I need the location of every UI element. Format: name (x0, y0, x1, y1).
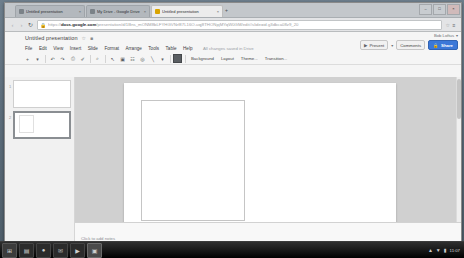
lock-icon: 🔒 (40, 22, 46, 28)
toolbar-divider (185, 55, 186, 63)
taskbar-app-mail[interactable]: ✉ (53, 243, 68, 258)
zoom-icon[interactable]: ⌕ (93, 54, 102, 63)
volume-icon[interactable]: ▮ (444, 247, 447, 253)
transition-button[interactable]: Transition... (262, 56, 290, 61)
page-title[interactable]: Untitled presentation (25, 35, 78, 41)
taskbar: ⊞ ▤ ● ✉ ▶ ▣ ▲ ▼ ▮ 11:07 (0, 241, 464, 258)
taskbar-app-explorer[interactable]: ▤ (19, 243, 34, 258)
redo-icon[interactable]: ↷ (58, 54, 67, 63)
new-tab-button[interactable]: + (225, 7, 228, 13)
slide-thumbnail-preview[interactable] (13, 80, 71, 108)
toolbar-divider (45, 55, 46, 63)
menu-insert[interactable]: Insert (70, 46, 82, 51)
present-button[interactable]: ▶ Present (360, 40, 388, 50)
background-button[interactable]: Background (188, 56, 217, 61)
present-label: Present (369, 43, 384, 48)
slide-thumbnail-preview[interactable] (13, 111, 71, 139)
star-icon[interactable]: ☆ (82, 35, 86, 41)
menu-tools[interactable]: Tools (148, 46, 159, 51)
fill-color-swatch[interactable] (173, 54, 182, 63)
textbox-icon[interactable]: ▣ (118, 54, 127, 63)
network-icon[interactable]: ▼ (436, 247, 441, 253)
theme-button[interactable]: Theme... (238, 56, 261, 61)
slide-placeholder-shape[interactable] (141, 100, 245, 221)
formatting-toolbar: + ▾ ↶ ↷ ⎙ ✐ ⌕ ↖ ▣ ☷ ◎ ╲ ▾ Background (5, 53, 461, 65)
share-button[interactable]: 🔒 Share (428, 40, 458, 50)
present-chevron-down-icon[interactable]: ▾ (391, 43, 393, 48)
url-path: /presentation/d/1Bns_mONM8bLFYHGVNrf87L1… (96, 22, 298, 27)
clock[interactable]: 11:07 (450, 248, 460, 253)
menu-file[interactable]: File (25, 46, 32, 51)
layout-button[interactable]: Layout (218, 56, 237, 61)
save-status: All changes saved in Drive (203, 46, 254, 51)
url-prefix: https:// (48, 22, 61, 27)
browser-menu-icon[interactable]: ≡ (450, 22, 458, 28)
window-controls: – □ × (419, 4, 460, 15)
new-slide-icon[interactable]: + (23, 54, 32, 63)
menu-arrange[interactable]: Arrange (125, 46, 141, 51)
account-name[interactable]: Bob Loftus (434, 33, 454, 38)
taskbar-app-media[interactable]: ▶ (70, 243, 85, 258)
tab-title: My Drive - Google Drive (97, 9, 142, 14)
slide-canvas[interactable] (124, 83, 396, 235)
drive-favicon (90, 9, 95, 14)
new-slide-caret-icon[interactable]: ▾ (33, 54, 42, 63)
slide-thumbnail-1[interactable]: 1 (5, 80, 74, 111)
url-text: https://docs.google.com/presentation/d/1… (48, 22, 299, 27)
paint-format-icon[interactable]: ✐ (78, 54, 87, 63)
taskbar-app-chrome[interactable]: ● (36, 243, 51, 258)
speaker-notes-panel[interactable]: Click to add notes (75, 222, 461, 242)
maximize-button[interactable]: □ (433, 4, 446, 15)
slide-canvas-area[interactable] (75, 77, 461, 242)
lock-icon: 🔒 (433, 43, 439, 48)
select-icon[interactable]: ↖ (108, 54, 117, 63)
url-domain: docs.google.com (61, 22, 96, 27)
chevron-down-icon[interactable]: ▾ (456, 33, 458, 38)
canvas-scrollbar[interactable] (456, 77, 461, 222)
system-tray: ▲ ▼ ▮ 11:07 (428, 247, 462, 253)
line-caret-icon[interactable]: ▾ (158, 54, 167, 63)
menu-format[interactable]: Format (104, 46, 119, 51)
menu-view[interactable]: View (53, 46, 63, 51)
tab-title: Untitled presentation (162, 9, 215, 14)
print-icon[interactable]: ⎙ (68, 54, 77, 63)
menu-slide[interactable]: Slide (88, 46, 98, 51)
toolbar-divider (105, 55, 106, 63)
back-icon[interactable]: ‹ (8, 22, 17, 28)
scrollbar-thumb[interactable] (457, 79, 461, 119)
insert-image-icon[interactable]: ☷ (128, 54, 137, 63)
address-bar[interactable]: 🔒 https://docs.google.com/presentation/d… (37, 20, 442, 30)
taskbar-app-docs[interactable]: ▣ (87, 243, 102, 258)
menu-edit[interactable]: Edit (39, 46, 47, 51)
minimize-button[interactable]: – (419, 4, 432, 15)
toolbar-divider (90, 55, 91, 63)
start-button[interactable]: ⊞ (2, 243, 17, 258)
slide-filmstrip: 1 2 (5, 77, 75, 242)
action-buttons: ▶ Present ▾ Comments 🔒 Share (360, 40, 458, 50)
menu-help[interactable]: Help (183, 46, 192, 51)
line-icon[interactable]: ╲ (148, 54, 157, 63)
forward-icon[interactable]: › (17, 22, 26, 28)
close-icon[interactable]: × (79, 9, 81, 14)
thumbnail-shape (19, 115, 34, 132)
close-button[interactable]: × (447, 4, 460, 15)
account-bar: Bob Loftus ▾ (434, 33, 458, 38)
reload-icon[interactable]: ↻ (26, 21, 35, 28)
slide-thumbnail-2-selected[interactable]: 2 (5, 111, 74, 142)
comments-button[interactable]: Comments (396, 40, 425, 50)
workspace: 1 2 (5, 77, 461, 242)
close-icon[interactable]: × (144, 9, 146, 14)
google-slides-app: Untitled presentation ☆ ■ Bob Loftus ▾ F… (5, 32, 461, 242)
close-icon[interactable]: × (217, 9, 219, 14)
browser-tab-3-active[interactable]: Untitled presentation × (151, 5, 223, 17)
undo-icon[interactable]: ↶ (48, 54, 57, 63)
browser-tab-2[interactable]: My Drive - Google Drive × (86, 5, 150, 17)
browser-window: Untitled presentation × My Drive - Googl… (4, 2, 462, 243)
show-hidden-icons-icon[interactable]: ▲ (428, 247, 433, 253)
shape-icon[interactable]: ◎ (138, 54, 147, 63)
folder-icon[interactable]: ■ (90, 35, 93, 41)
desktop: Untitled presentation × My Drive - Googl… (0, 0, 464, 258)
menu-table[interactable]: Table (166, 46, 177, 51)
comments-label: Comments (400, 43, 421, 48)
browser-tab-1[interactable]: Untitled presentation × (15, 5, 85, 17)
